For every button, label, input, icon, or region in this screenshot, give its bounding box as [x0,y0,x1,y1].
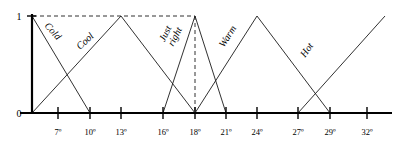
set-label-warm: Warm [216,23,238,49]
chart-svg: 1 0 7º 10º 13º 16º 18º 21º 24º 27º 29º 3… [0,0,403,146]
x-axis-label-27: 27º [292,127,304,137]
x-axis-label-13: 13º [115,127,127,137]
set-label-cool: Cool [74,30,96,51]
y-axis-label-1: 1 [17,11,22,22]
x-axis-label-7: 7º [55,127,62,137]
fuzzy-membership-chart: 1 0 7º 10º 13º 16º 18º 21º 24º 27º 29º 3… [0,0,403,146]
axes [20,14,392,119]
set-label-just-right: Just right [156,21,184,48]
set-label-hot: Hot [297,40,315,60]
x-axis-label-24: 24º [251,127,263,137]
x-axis-label-10: 10º [84,127,96,137]
x-axis-label-16: 16º [157,127,169,137]
x-axis-label-21: 21º [220,127,232,137]
curve-warm [195,16,330,113]
curve-hot [298,16,385,113]
membership-curves [32,16,385,113]
x-axis-label-32: 32º [361,127,373,137]
y-axis-label-0: 0 [17,108,22,119]
x-axis-label-29: 29º [324,127,336,137]
x-axis-label-18: 18º [189,127,201,137]
